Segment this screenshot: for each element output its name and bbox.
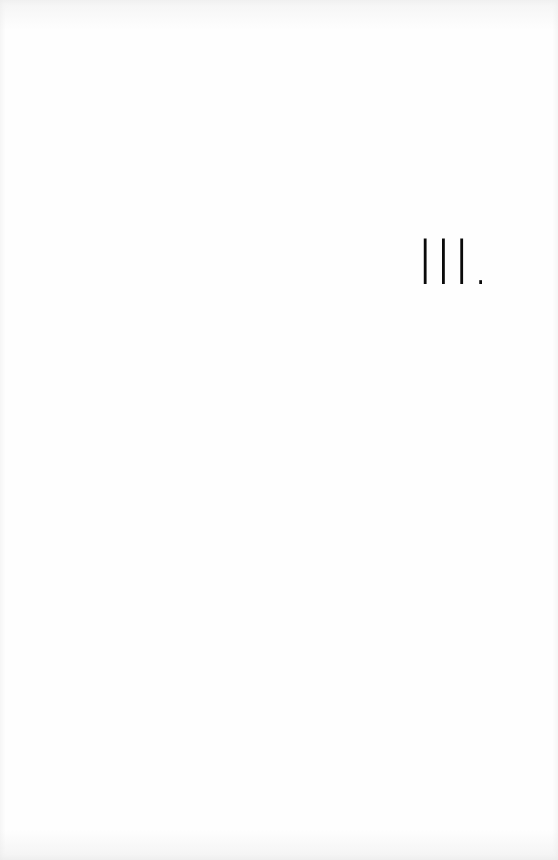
book-page: III. bbox=[0, 0, 558, 860]
section-numeral: III. bbox=[417, 232, 491, 294]
